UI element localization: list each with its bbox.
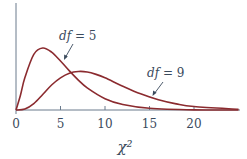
annotation-df-9: df = 9: [147, 66, 184, 80]
annotation-df-value: = 9: [159, 66, 184, 80]
curve-df-5: [16, 48, 239, 110]
arrow-icon: [64, 44, 73, 60]
annotation-df-value: = 5: [71, 29, 96, 43]
x-tick-label: 15: [142, 117, 157, 131]
annotation-df-5: df = 5: [59, 29, 96, 43]
x-axis-label: χ²: [116, 138, 132, 156]
arrow-icon: [153, 82, 164, 96]
x-tick-label: 5: [57, 117, 65, 131]
x-tick-labels: 0 5 10 15 20: [12, 117, 201, 131]
curve-df-9: [16, 71, 239, 110]
x-tick-label: 20: [186, 117, 201, 131]
chi-square-chart: 0 5 10 15 20 χ² df = 5 df = 9: [0, 0, 247, 159]
x-tick-label: 0: [12, 117, 20, 131]
x-tick-label: 10: [97, 117, 112, 131]
